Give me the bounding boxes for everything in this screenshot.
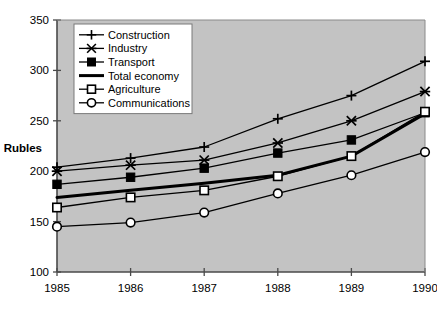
y-tick-label: 300 xyxy=(30,64,49,76)
x-tick-label: 1990 xyxy=(412,282,437,294)
x-tick-label: 1985 xyxy=(44,282,70,294)
y-tick-label: 250 xyxy=(30,115,49,127)
data-point-marker-open-square xyxy=(421,108,429,116)
data-point-marker-open-circle xyxy=(200,208,209,217)
y-tick-label: 150 xyxy=(30,216,49,228)
legend-label: Transport xyxy=(108,56,155,68)
data-point-marker-open-circle xyxy=(53,222,62,231)
data-point-marker-filled-square xyxy=(53,180,61,188)
legend-label: Total economy xyxy=(108,70,179,82)
data-point-marker-open-circle xyxy=(421,148,430,157)
line-chart: 100150200250300350 198519861987198819891… xyxy=(0,0,437,312)
data-point-marker-filled-square xyxy=(126,173,134,181)
data-point-marker-open-circle xyxy=(87,99,95,107)
data-point-marker-open-square xyxy=(88,85,96,93)
data-point-marker-open-circle xyxy=(126,218,135,227)
y-tick-label: 100 xyxy=(30,266,49,278)
data-point-marker-filled-square xyxy=(274,149,282,157)
data-point-marker-open-circle xyxy=(347,171,356,180)
y-tick-label: 350 xyxy=(30,14,49,26)
data-point-marker-filled-square xyxy=(200,164,208,172)
data-point-marker-open-circle xyxy=(274,189,283,198)
data-point-marker-open-square xyxy=(274,172,282,180)
y-axis-title: Rubles xyxy=(4,142,42,154)
x-tick-label: 1988 xyxy=(265,282,291,294)
legend-label: Construction xyxy=(108,29,170,41)
y-tick-label: 200 xyxy=(30,165,49,177)
x-tick-label: 1986 xyxy=(118,282,144,294)
chart-legend: ConstructionIndustryTransportTotal econo… xyxy=(74,24,192,114)
chart-container: 100150200250300350 198519861987198819891… xyxy=(0,0,437,312)
legend-label: Industry xyxy=(108,42,148,54)
legend-label: Communications xyxy=(108,97,190,109)
x-tick-label: 1987 xyxy=(191,282,217,294)
legend-label: Agriculture xyxy=(108,83,161,95)
data-point-marker-open-square xyxy=(53,203,61,211)
data-point-marker-filled-square xyxy=(347,136,355,144)
legend-item-transport[interactable]: Transport xyxy=(79,56,155,68)
data-point-marker-open-square xyxy=(126,193,134,201)
data-point-marker-open-square xyxy=(347,152,355,160)
x-tick-label: 1989 xyxy=(339,282,365,294)
data-point-marker-open-square xyxy=(200,186,208,194)
legend-item-agriculture[interactable]: Agriculture xyxy=(79,83,161,95)
data-point-marker-filled-square xyxy=(88,58,96,66)
